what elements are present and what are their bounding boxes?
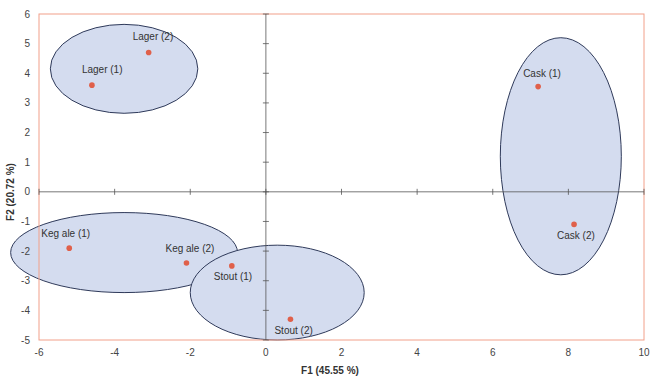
y-tick-labels: -5-4-3-2-10123456: [21, 9, 30, 346]
x-tick-label: -4: [110, 347, 119, 358]
x-tick-labels: -6-4-20246810: [35, 347, 650, 358]
cluster-ellipse-lager: [50, 24, 197, 113]
y-axis-label: F2 (20.72 %): [5, 163, 16, 221]
x-tick-label: 4: [414, 347, 420, 358]
pca-scatter-chart: -6-4-20246810 -5-4-3-2-10123456 Lager (1…: [0, 0, 655, 380]
y-tick-label: -5: [21, 335, 30, 346]
y-tick-label: -3: [21, 275, 30, 286]
data-point-cask-1: [535, 84, 541, 90]
y-tick-label: 5: [24, 38, 30, 49]
point-label-lager-1: Lager (1): [82, 64, 123, 75]
data-point-stout-1: [229, 263, 235, 269]
data-point-stout-2: [288, 316, 294, 322]
x-tick-label: 8: [566, 347, 572, 358]
point-label-stout-1: Stout (1): [214, 271, 252, 282]
x-tick-label: 6: [490, 347, 496, 358]
y-tick-label: 3: [24, 97, 30, 108]
y-tick-label: -4: [21, 305, 30, 316]
point-label-keg-ale-1: Keg ale (1): [41, 228, 90, 239]
x-tick-label: 10: [638, 347, 650, 358]
x-tick-label: 0: [263, 347, 269, 358]
data-point-keg-ale-1: [66, 245, 72, 251]
point-label-cask-1: Cask (1): [523, 68, 561, 79]
x-tick-label: -2: [186, 347, 195, 358]
x-tick-label: -6: [35, 347, 44, 358]
y-tick-label: -2: [21, 246, 30, 257]
data-point-cask-2: [571, 222, 577, 228]
data-point-keg-ale-2: [184, 260, 190, 266]
point-label-keg-ale-2: Keg ale (2): [165, 243, 214, 254]
point-label-cask-2: Cask (2): [557, 230, 595, 241]
x-axis-label: F1 (45.55 %): [301, 365, 359, 376]
y-tick-label: 4: [24, 68, 30, 79]
y-tick-label: 6: [24, 9, 30, 20]
data-point-lager-2: [146, 50, 152, 56]
x-tick-label: 2: [339, 347, 345, 358]
point-label-lager-2: Lager (2): [133, 31, 174, 42]
data-point-lager-1: [89, 82, 95, 88]
point-label-stout-2: Stout (2): [274, 325, 312, 336]
y-tick-label: -1: [21, 216, 30, 227]
y-tick-label: 1: [24, 157, 30, 168]
y-tick-label: 2: [24, 127, 30, 138]
y-tick-label: 0: [24, 186, 30, 197]
